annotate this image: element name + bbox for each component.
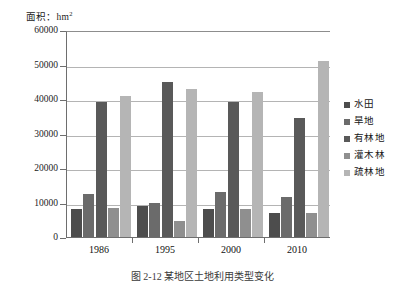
bar-group (134, 32, 200, 237)
bar (186, 89, 197, 237)
legend-item-label: 旱地 (354, 117, 375, 127)
legend-swatch-icon (344, 170, 350, 176)
bar (228, 102, 239, 237)
x-axis-tick-label: 2010 (267, 244, 327, 255)
bar (174, 221, 185, 237)
bar (120, 96, 131, 237)
bar (162, 82, 173, 237)
legend-item: 有林地 (344, 130, 404, 147)
bar (281, 197, 292, 237)
legend-swatch-icon (344, 119, 350, 125)
bar-group (68, 32, 134, 237)
y-axis-tick-mark (60, 66, 66, 67)
y-axis-tick-label: 50000 (6, 61, 58, 71)
bar (108, 208, 119, 237)
bar (318, 61, 329, 237)
y-axis-tick-mark (60, 100, 66, 101)
legend-item: 旱地 (344, 113, 404, 130)
x-axis-tick-mark (198, 238, 199, 243)
bar-group (266, 32, 332, 237)
y-axis-unit-superscript: 2 (69, 10, 72, 17)
bar (240, 209, 251, 237)
x-axis-tick-label: 2000 (201, 244, 261, 255)
x-axis-tick-label: 1986 (69, 244, 129, 255)
bar (252, 92, 263, 237)
y-axis-tick-mark (60, 238, 66, 239)
bar (83, 194, 94, 237)
x-axis-tick-label: 1995 (135, 244, 195, 255)
x-axis-tick-mark (264, 238, 265, 243)
bar (96, 102, 107, 237)
figure-bar-chart: 面积：hm2 6000050000400003000020000100000 1… (0, 0, 405, 281)
bar (269, 213, 280, 237)
y-axis-tick-mark (60, 169, 66, 170)
y-axis-tick-label: 60000 (6, 26, 58, 36)
bar (71, 209, 82, 237)
bar (215, 192, 226, 237)
legend-item: 灌木林 (344, 147, 404, 164)
legend-item: 疏林地 (344, 164, 404, 181)
legend-item-label: 有林地 (354, 134, 385, 144)
y-axis-tick-label: 10000 (6, 199, 58, 209)
legend-swatch-icon (344, 102, 350, 108)
bar (306, 213, 317, 237)
legend-item-label: 水田 (354, 100, 375, 110)
y-axis-tick-mark (60, 31, 66, 32)
bar (149, 203, 160, 238)
bar (203, 209, 214, 237)
y-axis-tick-label: 20000 (6, 164, 58, 174)
legend-swatch-icon (344, 136, 350, 142)
plot-area (66, 31, 330, 238)
legend-item-label: 疏林地 (354, 168, 385, 178)
bar (294, 118, 305, 237)
y-axis-tick-label: 0 (6, 233, 58, 243)
x-axis-tick-mark (132, 238, 133, 243)
legend-item: 水田 (344, 96, 404, 113)
legend-item-label: 灌木林 (354, 151, 385, 161)
y-axis-labels: 6000050000400003000020000100000 (0, 0, 58, 281)
chart-legend: 水田旱地有林地灌木林疏林地 (344, 96, 404, 181)
legend-swatch-icon (344, 153, 350, 159)
bar-series-container (68, 32, 330, 237)
figure-caption: 图 2-12 某地区土地利用类型变化 (0, 268, 405, 281)
y-axis-tick-label: 40000 (6, 95, 58, 105)
bar-group (200, 32, 266, 237)
bar (137, 206, 148, 237)
y-axis-tick-label: 30000 (6, 130, 58, 140)
y-axis-tick-mark (60, 135, 66, 136)
y-axis-tick-mark (60, 204, 66, 205)
